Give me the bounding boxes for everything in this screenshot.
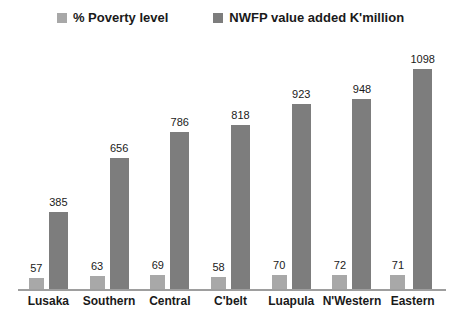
plot-area: 573856365669786588187092372948711098 [18, 39, 443, 289]
nwfp-bar [231, 125, 250, 289]
legend-item-nwfp: NWFP value added K'million [213, 10, 404, 25]
category-label: Central [139, 294, 200, 308]
value-label: 72 [334, 259, 346, 271]
nwfp-bar [110, 158, 129, 289]
poverty-bar [211, 277, 226, 289]
chart-canvas: % Poverty levelNWFP value added K'millio… [0, 0, 461, 327]
nwfp-bar-unit: 923 [292, 88, 311, 289]
poverty-bar-unit: 71 [390, 259, 405, 289]
nwfp-bar-unit: 948 [352, 83, 371, 289]
category-label: Southern [79, 294, 140, 308]
legend-label: % Poverty level [73, 10, 168, 25]
bar-group: 69786 [139, 39, 200, 289]
legend: % Poverty levelNWFP value added K'millio… [0, 10, 461, 25]
nwfp-bar [49, 212, 68, 289]
poverty-bar-unit: 58 [211, 261, 226, 289]
legend-swatch-icon [213, 13, 223, 23]
value-label: 58 [212, 261, 224, 273]
poverty-bar [332, 275, 347, 289]
value-label: 1098 [410, 53, 434, 65]
value-label: 818 [231, 109, 249, 121]
x-axis-category-labels: LusakaSouthernCentralC'beltLuapulaN'West… [18, 294, 443, 308]
bar-group: 57385 [18, 39, 79, 289]
nwfp-bar [170, 132, 189, 289]
legend-label: NWFP value added K'million [229, 10, 404, 25]
value-label: 923 [292, 88, 310, 100]
x-axis-line [18, 289, 446, 291]
value-label: 656 [110, 142, 128, 154]
nwfp-bar-unit: 656 [110, 142, 129, 289]
poverty-bar-unit: 69 [150, 259, 165, 289]
nwfp-bar [352, 99, 371, 289]
bar-group: 711098 [382, 39, 443, 289]
poverty-bar [272, 275, 287, 289]
category-label: Lusaka [18, 294, 79, 308]
nwfp-bar-unit: 385 [49, 196, 68, 289]
poverty-bar-unit: 72 [332, 259, 347, 289]
value-label: 948 [353, 83, 371, 95]
bar-group: 58818 [200, 39, 261, 289]
poverty-bar [150, 275, 165, 289]
nwfp-bar-unit: 1098 [410, 53, 434, 289]
category-label: Luapula [261, 294, 322, 308]
bar-group: 72948 [322, 39, 383, 289]
value-label: 69 [152, 259, 164, 271]
category-label: C'belt [200, 294, 261, 308]
nwfp-bar-unit: 818 [231, 109, 250, 289]
nwfp-bar [413, 69, 432, 289]
legend-swatch-icon [57, 13, 67, 23]
value-label: 385 [49, 196, 67, 208]
poverty-bar [29, 278, 44, 289]
poverty-bar-unit: 70 [272, 259, 287, 289]
value-label: 70 [273, 259, 285, 271]
category-label: N'Western [322, 294, 383, 308]
bar-group: 63656 [79, 39, 140, 289]
poverty-bar-unit: 63 [90, 260, 105, 289]
category-label: Eastern [382, 294, 443, 308]
legend-item-poverty: % Poverty level [57, 10, 168, 25]
value-label: 71 [392, 259, 404, 271]
value-label: 63 [91, 260, 103, 272]
nwfp-bar [292, 104, 311, 289]
value-label: 57 [30, 262, 42, 274]
poverty-bar-unit: 57 [29, 262, 44, 289]
poverty-bar [90, 276, 105, 289]
nwfp-bar-unit: 786 [170, 116, 189, 289]
value-label: 786 [171, 116, 189, 128]
poverty-bar [390, 275, 405, 289]
bar-group: 70923 [261, 39, 322, 289]
